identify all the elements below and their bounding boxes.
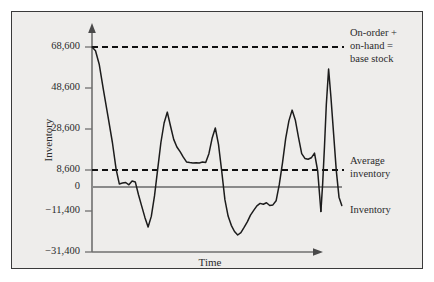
- y-tick-label: 28,600: [51, 122, 80, 133]
- inventory-series-spike: [321, 69, 342, 211]
- y-tick-label: 48,600: [51, 81, 80, 92]
- base-stock-label-line-2: on-hand =: [350, 40, 393, 51]
- inventory-series-line: [92, 47, 321, 235]
- inventory-line-chart: 68,600 48,600 28,600 8,600 0 −11,400 −31…: [12, 12, 422, 268]
- average-label-line-1: Average: [350, 155, 385, 166]
- y-tick-label: −11,400: [46, 204, 80, 215]
- y-axis-title: Inventory: [42, 118, 54, 161]
- y-tick-label: 68,600: [51, 40, 80, 51]
- average-label-line-2: inventory: [350, 168, 391, 179]
- x-axis-arrow-icon: [313, 248, 323, 256]
- base-stock-label-line-1: On-order +: [350, 27, 397, 38]
- base-stock-annotation: On-order + on-hand = base stock: [350, 27, 397, 64]
- average-inventory-annotation: Average inventory: [350, 155, 391, 179]
- base-stock-label-line-3: base stock: [350, 53, 394, 64]
- y-tick-label: 0: [75, 180, 80, 191]
- y-tick-label: −31,400: [45, 245, 80, 256]
- y-tick-label: 8,600: [56, 163, 80, 174]
- y-axis-arrow-icon: [88, 23, 96, 33]
- x-axis-title: Time: [199, 256, 222, 268]
- inventory-series-label: Inventory: [350, 204, 392, 215]
- chart-figure: 68,600 48,600 28,600 8,600 0 −11,400 −31…: [11, 11, 423, 269]
- y-axis-ticks: [85, 47, 92, 252]
